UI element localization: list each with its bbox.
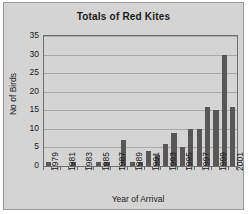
y-tick-label: 10 bbox=[15, 124, 39, 132]
y-tick-label: 0 bbox=[15, 161, 39, 169]
x-tick-label: 1999 bbox=[218, 152, 228, 171]
y-tick-label: 20 bbox=[15, 87, 39, 95]
x-tick-label: 1983 bbox=[84, 152, 94, 171]
y-tick-label: 25 bbox=[15, 68, 39, 76]
y-axis-tick-labels: 05101520253035 bbox=[13, 35, 39, 167]
bar-series bbox=[44, 36, 237, 166]
x-tick bbox=[43, 167, 44, 170]
x-tick-label: 1997 bbox=[201, 152, 211, 171]
x-tick-label: 1979 bbox=[50, 152, 60, 171]
x-tick bbox=[127, 167, 128, 170]
x-tick-label: 1993 bbox=[168, 152, 178, 171]
chart-container: Totals of Red Kites No of Birds 05101520… bbox=[3, 2, 244, 210]
bar bbox=[222, 55, 227, 166]
y-tick-label: 15 bbox=[15, 105, 39, 113]
x-tick-label: 1989 bbox=[134, 152, 144, 171]
y-tick-label: 35 bbox=[15, 31, 39, 39]
x-tick-label: 1991 bbox=[151, 152, 161, 171]
x-tick-label: 1985 bbox=[101, 152, 111, 171]
x-tick-label: 1987 bbox=[117, 152, 127, 171]
plot-area bbox=[43, 35, 238, 167]
x-tick-label: 1995 bbox=[184, 152, 194, 171]
x-tick-label: 1981 bbox=[67, 152, 77, 171]
x-tick-label: 2001 bbox=[235, 152, 245, 171]
x-axis-label: Year of Arrival bbox=[38, 194, 238, 204]
y-tick-label: 5 bbox=[15, 142, 39, 150]
x-tick bbox=[194, 167, 195, 170]
y-tick-label: 30 bbox=[15, 50, 39, 58]
chart-title: Totals of Red Kites bbox=[4, 11, 243, 22]
